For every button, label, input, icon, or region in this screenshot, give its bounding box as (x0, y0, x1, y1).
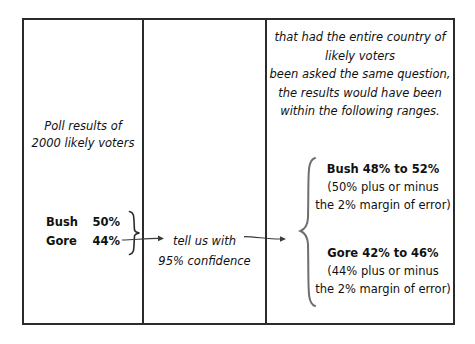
range-block-bush: Bush 48% to 52% (50% plus or minus the 2… (313, 160, 453, 214)
panel-inference: tell us with 95% confidence (144, 20, 265, 323)
ranges-intro-line-3: been asked the same question, (269, 65, 451, 84)
poll-figures-list: Bush 50% Gore 44% (32, 213, 132, 251)
range-heading: Bush 48% to 52% (313, 160, 453, 178)
range-sub-line-1: (50% plus or minus (313, 178, 453, 196)
ranges-intro-text: that had the entire country of likely vo… (269, 28, 451, 121)
panel-poll-results: Poll results of 2000 likely voters Bush … (24, 20, 142, 323)
poll-caption-line-1: Poll results of (24, 118, 142, 135)
range-sub-line-1: (44% plus or minus (313, 262, 453, 280)
ranges-intro-line-2: likely voters (269, 47, 451, 66)
poll-figure-row: Bush 50% (32, 213, 132, 232)
ranges-intro-line-5: within the following ranges. (269, 102, 451, 121)
poll-candidate-name: Bush (46, 213, 78, 232)
poll-figure-row: Gore 44% (32, 232, 132, 251)
poll-caption-line-2: 2000 likely voters (24, 135, 142, 152)
range-sub-line-2: the 2% margin of error) (313, 196, 453, 214)
poll-candidate-value: 50% (92, 213, 120, 232)
panel-ranges: that had the entire country of likely vo… (267, 20, 453, 323)
ranges-intro-line-4: the results would have been (269, 84, 451, 103)
diagram-frame: Poll results of 2000 likely voters Bush … (22, 18, 455, 325)
range-heading: Gore 42% to 46% (313, 244, 453, 262)
inference-line-2: 95% confidence (144, 251, 265, 271)
poll-candidate-name: Gore (46, 232, 77, 251)
range-sub-line-2: the 2% margin of error) (313, 280, 453, 298)
ranges-intro-line-1: that had the entire country of (269, 28, 451, 47)
poll-candidate-value: 44% (92, 232, 120, 251)
range-block-gore: Gore 42% to 46% (44% plus or minus the 2… (313, 244, 453, 298)
poll-results-caption: Poll results of 2000 likely voters (24, 118, 142, 152)
